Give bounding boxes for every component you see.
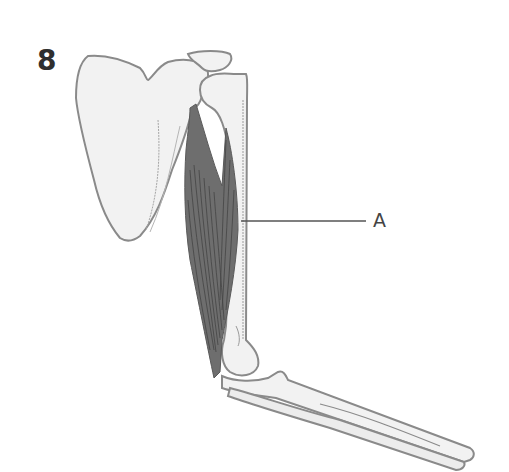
arm-anatomy-diagram bbox=[0, 0, 509, 472]
radius bbox=[228, 388, 465, 470]
ulna bbox=[222, 372, 474, 462]
label-A: A bbox=[373, 209, 386, 231]
